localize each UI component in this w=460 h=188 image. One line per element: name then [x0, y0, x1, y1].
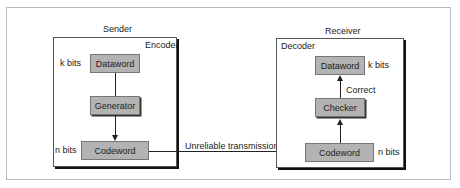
sender-title: Sender	[103, 24, 132, 34]
codeword-to-checker-line	[340, 124, 341, 143]
generator-to-codeword-line	[115, 116, 116, 136]
decoder-label: Decoder	[281, 41, 315, 51]
receiver-dataword-box: Dataword	[315, 56, 365, 75]
receiver-codeword-box: Codeword	[305, 143, 374, 162]
receiver-dataword-size: k bits	[368, 60, 389, 70]
sender-dataword-to-generator-line	[115, 73, 116, 97]
generator-label: Generator	[95, 101, 136, 111]
generator-box: Generator	[90, 96, 140, 115]
sender-codeword-box: Codeword	[81, 141, 149, 160]
receiver-codeword-label: Codeword	[319, 148, 360, 158]
sender-dataword-box: Dataword	[90, 54, 140, 73]
sender-codeword-label: Codeword	[94, 146, 135, 156]
correct-label: Correct	[346, 85, 376, 95]
receiver-codeword-size: n bits	[378, 147, 400, 157]
sender-dataword-label: Dataword	[96, 59, 135, 69]
checker-to-dataword-line	[340, 80, 341, 99]
sender-codeword-size: n bits	[55, 145, 77, 155]
receiver-title: Receiver	[325, 26, 361, 36]
receiver-dataword-label: Dataword	[321, 61, 360, 71]
sender-dataword-size: k bits	[60, 58, 81, 68]
checker-label: Checker	[323, 103, 357, 113]
checker-box: Checker	[315, 98, 365, 117]
transmission-label: Unreliable transmission	[185, 141, 279, 151]
encoder-label: Encoder	[145, 40, 179, 50]
